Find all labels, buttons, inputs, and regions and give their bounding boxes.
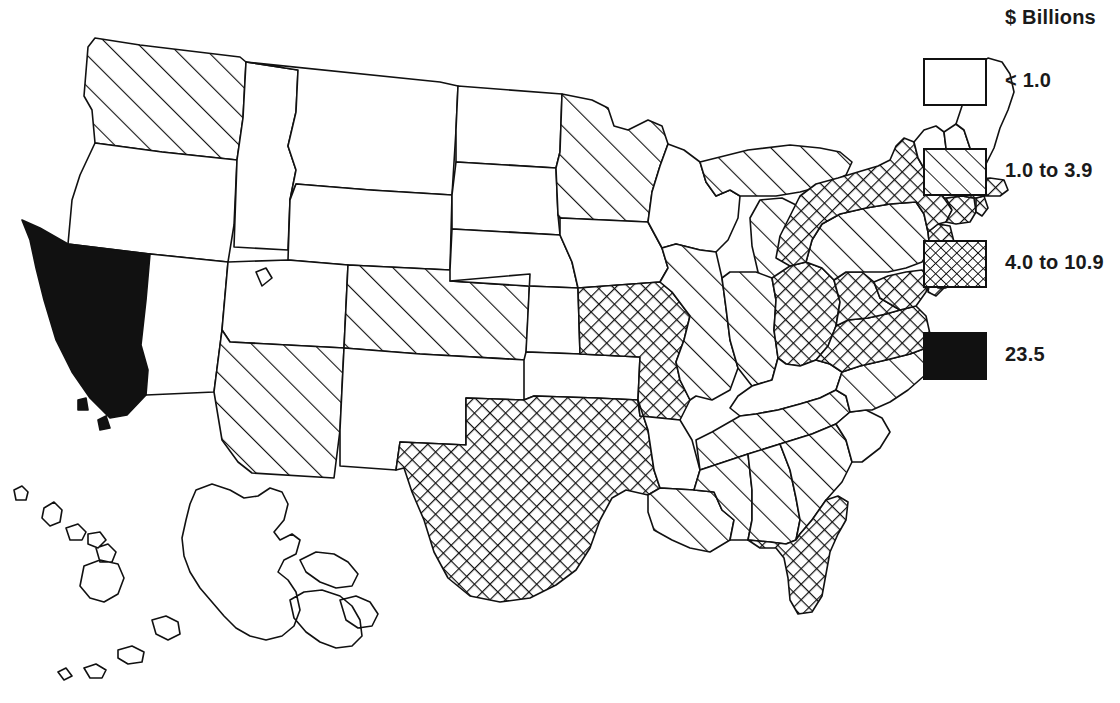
state-CA [22,220,150,430]
hatch-pattern-icon [925,150,985,194]
legend-swatch-1-to-3.9 [923,148,987,196]
legend-label-23.5: 23.5 [1005,343,1045,366]
state-NV [141,254,228,395]
state-AZ [214,330,344,478]
state-WY [288,184,452,270]
legend-swatch-under-1 [923,58,987,106]
legend-label-1-to-3.9: 1.0 to 3.9 [1005,159,1093,182]
legend-label-4-to-10.9: 4.0 to 10.9 [1005,251,1104,274]
crosshatch-pattern-icon [925,242,985,286]
legend-swatch-23.5 [923,332,987,380]
state-HI [14,486,124,602]
state-WA [84,38,246,160]
state-OR [68,143,237,262]
legend-label-under-1: < 1.0 [1005,69,1051,92]
state-UT [222,260,348,348]
state-ND [456,86,562,168]
legend-row-under-1: < 1.0 [905,58,1120,110]
state-SD [452,162,560,235]
legend-title: $ Billions [1005,6,1096,29]
legend-row-23.5: 23.5 [905,332,1120,384]
legend-row-1-to-3.9: 1.0 to 3.9 [905,148,1120,200]
map-legend: $ Billions < 1.0 1.0 to 3.9 4.0 to 10.9 [905,0,1120,420]
choropleth-figure: $ Billions < 1.0 1.0 to 3.9 4.0 to 10.9 [0,0,1120,703]
legend-row-4-to-10.9: 4.0 to 10.9 [905,240,1120,292]
states-layer [14,38,1014,680]
legend-swatch-4-to-10.9 [923,240,987,288]
